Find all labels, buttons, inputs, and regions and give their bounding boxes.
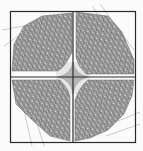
petal-bottom-left xyxy=(12,80,70,141)
petal-top-right xyxy=(76,12,134,74)
quilt-block-diagram xyxy=(0,0,143,151)
quilt-diagram-svg xyxy=(0,0,143,151)
petal-top-left xyxy=(12,13,72,71)
petal-bottom-right xyxy=(75,80,134,141)
